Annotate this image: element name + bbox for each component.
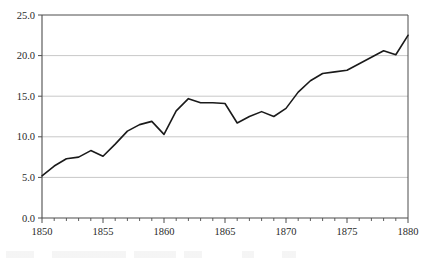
- x-axis-tick-labels: 1850185518601865187018751880: [32, 226, 419, 237]
- y-axis-tick-labels: 0.05.010.015.020.025.0: [17, 10, 35, 224]
- line-chart: 0.05.010.015.020.025.0 18501855186018651…: [0, 0, 423, 260]
- cropped-caption-fragment: [6, 251, 306, 258]
- y-tick-label: 5.0: [22, 172, 35, 183]
- x-tick-label: 1870: [276, 226, 297, 237]
- plot-background: [42, 15, 408, 218]
- y-axis-ticks: [38, 15, 42, 218]
- y-tick-label: 15.0: [17, 91, 35, 102]
- y-tick-label: 20.0: [17, 50, 35, 61]
- x-tick-label: 1865: [215, 226, 236, 237]
- y-tick-label: 10.0: [17, 131, 35, 142]
- chart-figure: 0.05.010.015.020.025.0 18501855186018651…: [0, 0, 423, 260]
- x-tick-label: 1850: [32, 226, 53, 237]
- y-tick-label: 25.0: [17, 10, 35, 21]
- y-tick-label: 0.0: [22, 213, 35, 224]
- x-tick-label: 1880: [398, 226, 419, 237]
- x-tick-label: 1875: [337, 226, 358, 237]
- x-axis-major-ticks: [42, 218, 408, 223]
- x-tick-label: 1855: [93, 226, 114, 237]
- x-tick-label: 1860: [154, 226, 175, 237]
